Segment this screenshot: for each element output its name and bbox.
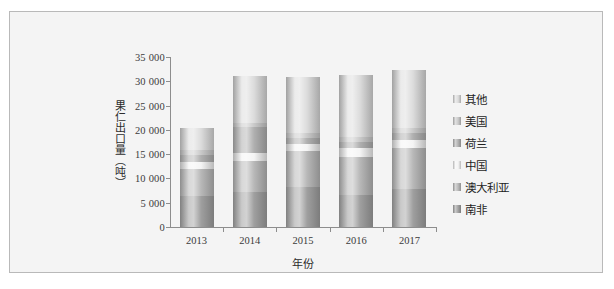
cylinder-shading	[453, 183, 461, 191]
stacked-bar-2016[interactable]	[339, 75, 373, 227]
cylinder-shading	[233, 127, 267, 153]
legend-swatch-icon	[453, 183, 461, 191]
cylinder-shading	[339, 148, 373, 156]
x-axis-tick	[276, 227, 277, 232]
legend-swatch-icon	[453, 205, 461, 213]
legend-label: 荷兰	[465, 135, 487, 151]
cylinder-shading	[339, 75, 373, 137]
bar-segment-荷兰	[286, 138, 320, 145]
x-axis-tick-label: 2016	[346, 235, 367, 246]
cylinder-shading	[453, 95, 461, 103]
bar-segment-中国	[180, 162, 214, 169]
cylinder-shading	[233, 192, 267, 227]
bar-segment-其他	[233, 76, 267, 122]
y-axis-tick-label: 20 000	[135, 124, 165, 135]
cylinder-shading	[339, 157, 373, 195]
y-axis-tick	[166, 203, 171, 204]
bar-segment-澳大利亚	[286, 151, 320, 186]
y-axis-tick	[166, 154, 171, 155]
legend-item-其他[interactable]: 其他	[453, 90, 573, 108]
y-axis-tick	[166, 227, 171, 228]
bar-segment-其他	[286, 77, 320, 133]
cylinder-shading	[180, 155, 214, 162]
y-axis-tick-label: 30 000	[135, 76, 165, 87]
cylinder-shading	[286, 144, 320, 151]
y-axis-line	[170, 57, 171, 227]
y-axis-tick-label: 25 000	[135, 100, 165, 111]
cylinder-shading	[233, 76, 267, 122]
cylinder-shading	[453, 161, 461, 169]
y-axis-title: 果仁出口量（吨）	[110, 100, 126, 188]
x-axis-tick-label: 2015	[293, 235, 314, 246]
bar-segment-中国	[233, 153, 267, 161]
x-axis-tick-label: 2014	[239, 235, 260, 246]
bar-segment-澳大利亚	[233, 161, 267, 191]
y-axis-tick-label: 0	[160, 222, 165, 233]
bar-segment-南非	[233, 192, 267, 227]
legend-label: 美国	[465, 113, 487, 129]
bar-segment-中国	[339, 148, 373, 156]
legend-item-南非[interactable]: 南非	[453, 200, 573, 218]
cylinder-shading	[392, 70, 426, 128]
bar-segment-其他	[392, 70, 426, 128]
stacked-bar-2014[interactable]	[233, 76, 267, 227]
cylinder-shading	[180, 196, 214, 227]
bar-segment-荷兰	[233, 127, 267, 153]
legend-label: 南非	[465, 201, 487, 217]
cylinder-shading	[286, 187, 320, 227]
cylinder-shading	[453, 117, 461, 125]
y-axis-tick-label: 10 000	[135, 173, 165, 184]
y-axis-tick-label: 35 000	[135, 52, 165, 63]
cylinder-shading	[392, 133, 426, 140]
y-axis-tick	[166, 106, 171, 107]
cylinder-shading	[286, 151, 320, 186]
chart-legend: 其他美国荷兰中国澳大利亚南非	[453, 90, 573, 222]
legend-swatch-icon	[453, 161, 461, 169]
bar-segment-南非	[286, 187, 320, 227]
legend-item-荷兰[interactable]: 荷兰	[453, 134, 573, 152]
cylinder-shading	[180, 128, 214, 150]
x-axis-line	[170, 227, 436, 228]
legend-item-中国[interactable]: 中国	[453, 156, 573, 174]
x-axis-title: 年份	[292, 255, 314, 271]
stacked-bar-2015[interactable]	[286, 77, 320, 227]
bar-segment-中国	[392, 140, 426, 148]
cylinder-shading	[392, 140, 426, 148]
cylinder-shading	[392, 148, 426, 189]
y-axis-tick	[166, 178, 171, 179]
stacked-bar-2013[interactable]	[180, 128, 214, 227]
stacked-bar-2017[interactable]	[392, 70, 426, 227]
bar-segment-其他	[339, 75, 373, 137]
bar-segment-澳大利亚	[180, 169, 214, 197]
bar-segment-其他	[180, 128, 214, 150]
x-axis-tick	[383, 227, 384, 232]
legend-swatch-icon	[453, 117, 461, 125]
cylinder-shading	[233, 161, 267, 191]
bar-segment-荷兰	[339, 142, 373, 149]
legend-label: 其他	[465, 91, 487, 107]
y-axis-tick-label: 5 000	[140, 197, 165, 208]
legend-label: 中国	[465, 157, 487, 173]
bar-segment-荷兰	[392, 133, 426, 140]
y-axis-tick	[166, 81, 171, 82]
y-axis-tick	[166, 57, 171, 58]
cylinder-shading	[339, 195, 373, 227]
x-axis-tick	[330, 227, 331, 232]
x-axis-tick	[223, 227, 224, 232]
bar-segment-南非	[339, 195, 373, 227]
chart-figure-frame: 05 00010 00015 00020 00025 00030 00035 0…	[9, 11, 603, 273]
x-axis-tick-label: 2017	[399, 235, 420, 246]
legend-item-澳大利亚[interactable]: 澳大利亚	[453, 178, 573, 196]
cylinder-shading	[180, 162, 214, 169]
cylinder-shading	[453, 139, 461, 147]
cylinder-shading	[453, 205, 461, 213]
bar-segment-南非	[392, 189, 426, 227]
plot-area: 20132014201520162017	[170, 57, 436, 227]
bar-segment-南非	[180, 196, 214, 227]
legend-item-美国[interactable]: 美国	[453, 112, 573, 130]
y-axis-tick	[166, 130, 171, 131]
cylinder-shading	[233, 153, 267, 161]
bar-segment-澳大利亚	[392, 148, 426, 189]
legend-swatch-icon	[453, 139, 461, 147]
y-axis-tick-label: 15 000	[135, 149, 165, 160]
